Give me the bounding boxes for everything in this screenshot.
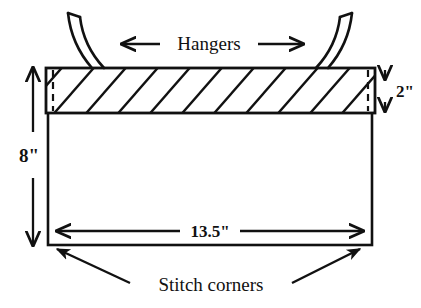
- band-height-dimension: 2": [385, 70, 414, 111]
- left-hanger-strap: [68, 13, 104, 68]
- diagram-canvas: Hangers 2" 8" 13.5" Stitch corners: [0, 0, 421, 308]
- stitch-corners-arrow-right: [292, 249, 360, 283]
- right-hanger-strap: [316, 13, 352, 68]
- panel-height-label: 8": [19, 145, 39, 166]
- stitch-corners-callout: Stitch corners: [57, 249, 360, 295]
- hangers-label: Hangers: [177, 33, 240, 54]
- stitch-corners-label: Stitch corners: [158, 274, 263, 295]
- band-height-label: 2": [396, 82, 414, 101]
- hatched-casing-band: [18, 63, 418, 118]
- panel-height-dimension: 8": [19, 68, 39, 245]
- sewing-pattern-diagram: Hangers 2" 8" 13.5" Stitch corners: [0, 0, 421, 308]
- stitch-corners-arrow-left: [57, 249, 130, 283]
- hangers-dimension: Hangers: [122, 33, 303, 54]
- panel-width-label: 13.5": [190, 222, 229, 241]
